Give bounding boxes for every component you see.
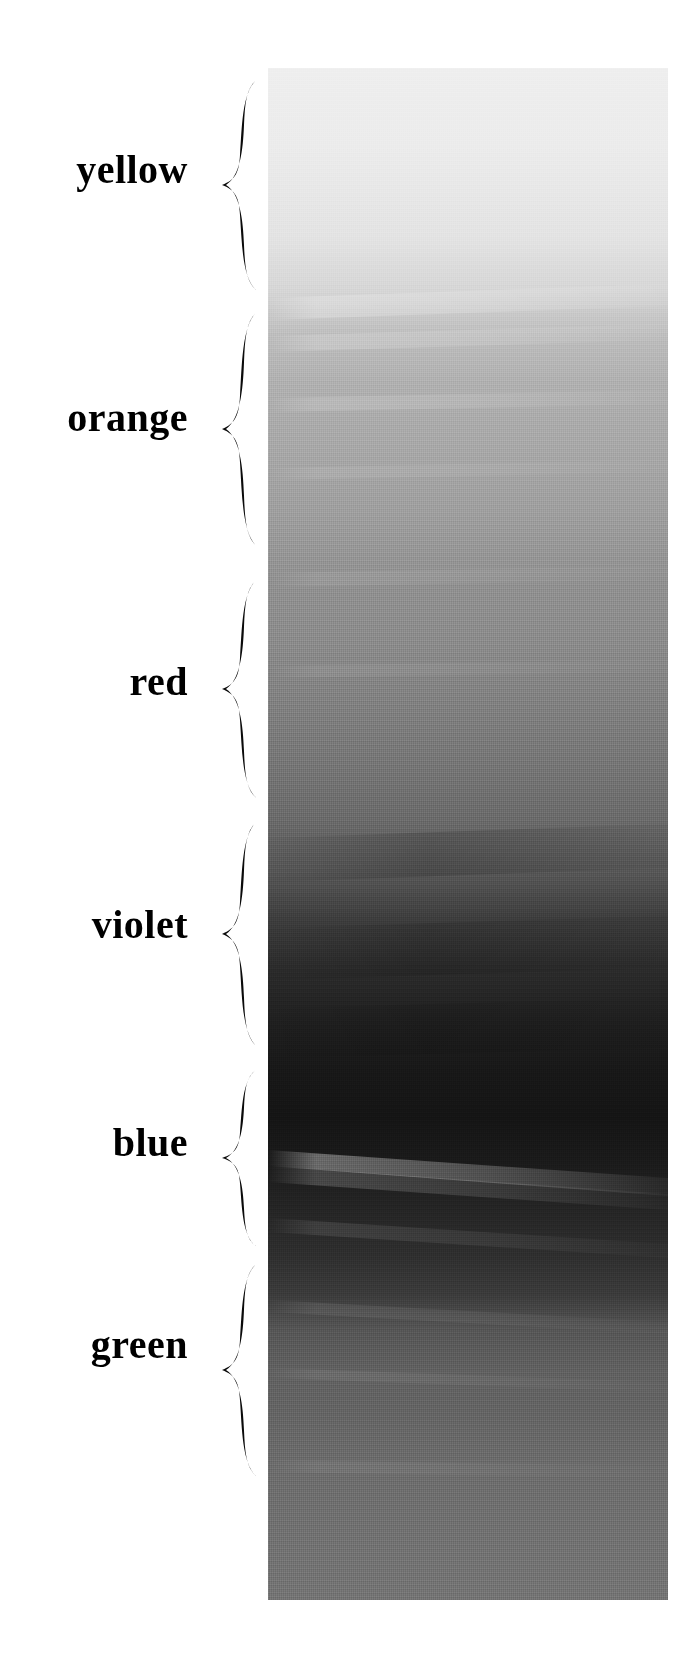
- label-red: red: [129, 662, 188, 702]
- label-yellow: yellow: [76, 150, 188, 190]
- label-orange: orange: [67, 398, 188, 438]
- brace-red: [212, 578, 270, 800]
- brace-yellow: [212, 78, 270, 292]
- brace-green: [212, 1262, 270, 1478]
- color-value-scale-figure: yellow orange red violet blue green: [0, 0, 699, 1678]
- label-violet: violet: [92, 905, 188, 945]
- label-blue: blue: [113, 1123, 188, 1163]
- brace-blue: [212, 1068, 270, 1248]
- brace-orange: [212, 310, 270, 548]
- label-green: green: [91, 1325, 188, 1365]
- brace-violet: [212, 820, 270, 1048]
- strip-canvas-weave-texture: [268, 68, 668, 1600]
- grayscale-paint-strip: [268, 68, 668, 1600]
